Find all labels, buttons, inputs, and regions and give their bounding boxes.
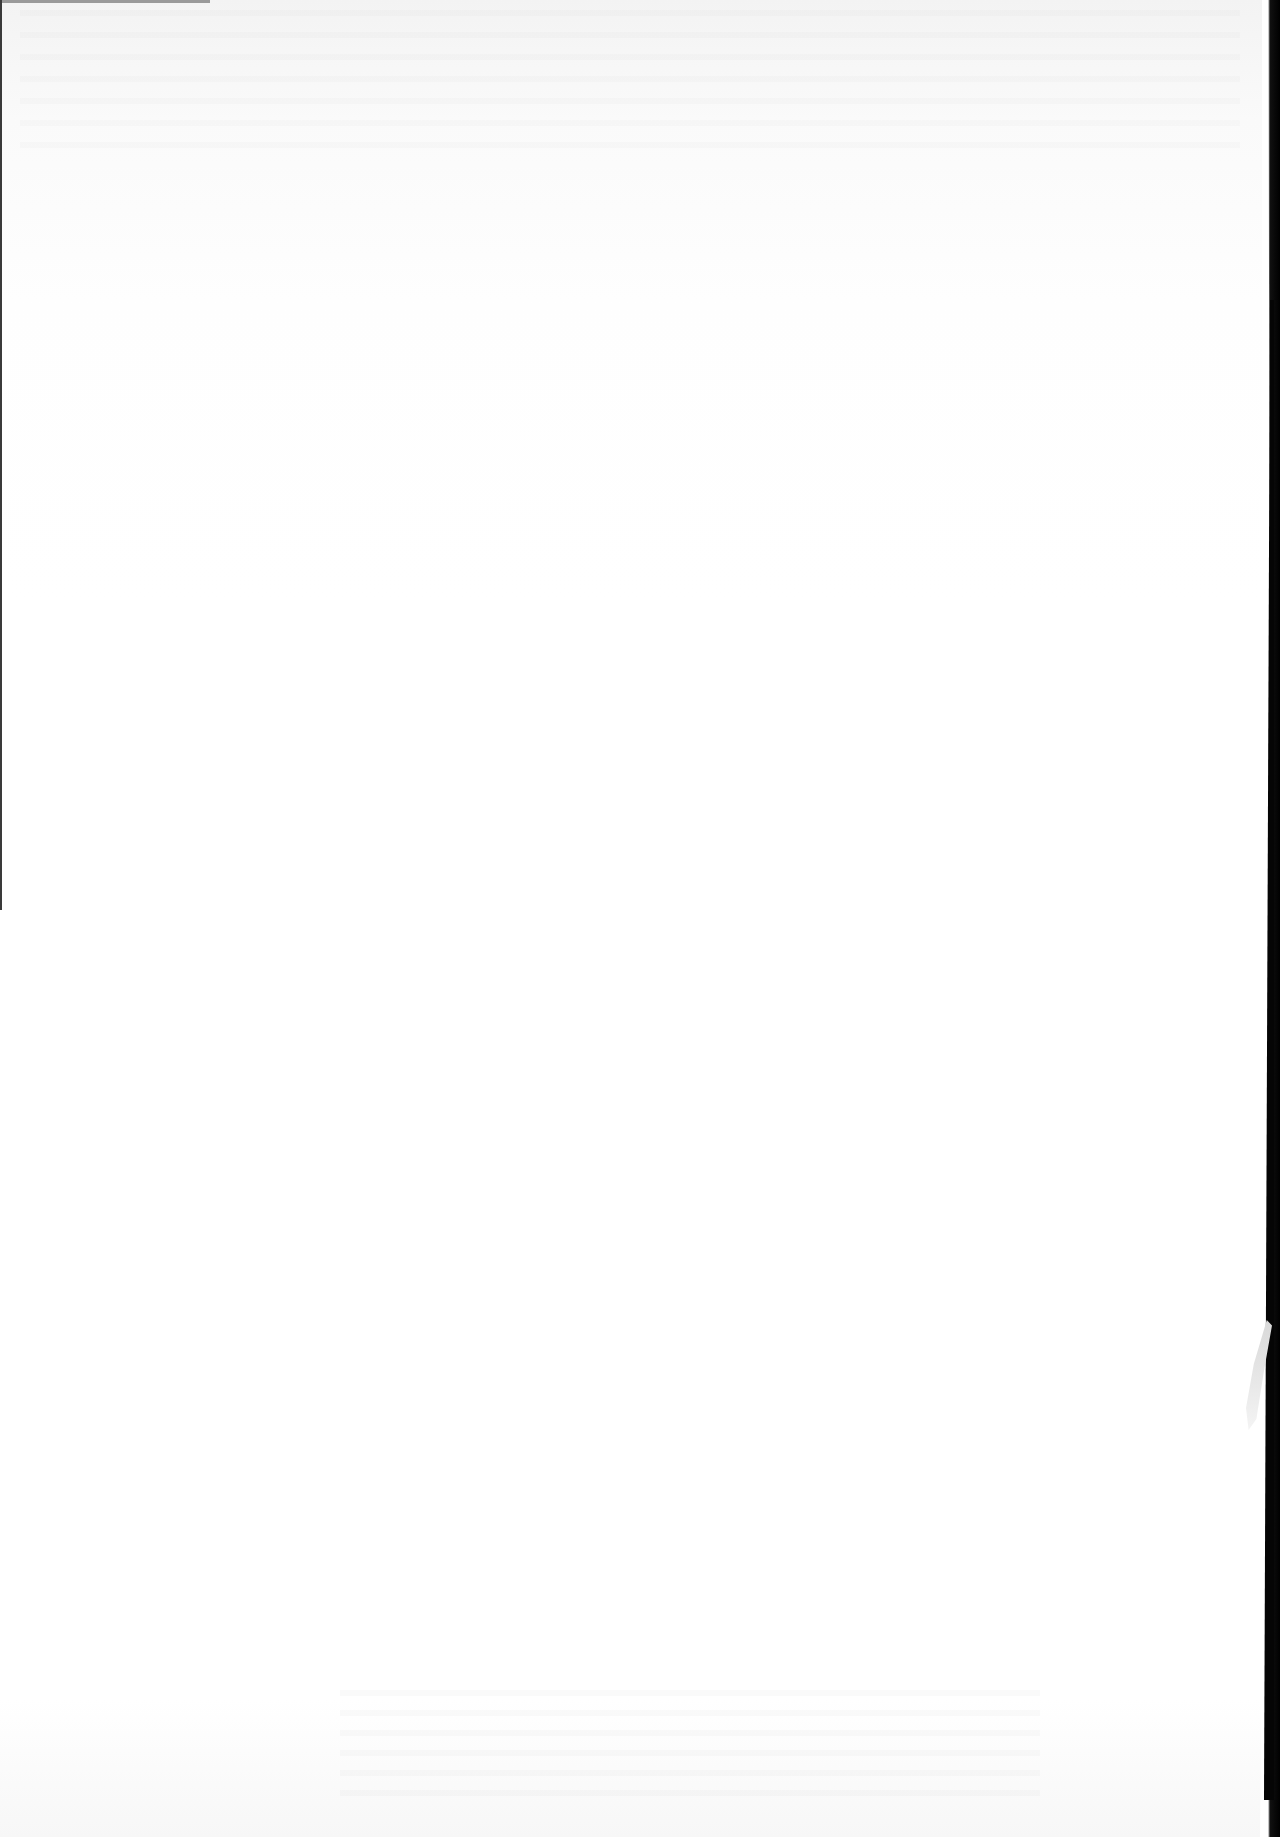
bleed-through-bottom xyxy=(340,1690,1040,1800)
top-edge-tab xyxy=(0,0,210,3)
bleed-through-top xyxy=(20,10,1240,150)
scanner-border-shadow xyxy=(1264,300,1274,1800)
scanned-document xyxy=(0,0,1280,1837)
left-page-edge xyxy=(0,0,2,910)
blank-page xyxy=(0,0,1262,1837)
